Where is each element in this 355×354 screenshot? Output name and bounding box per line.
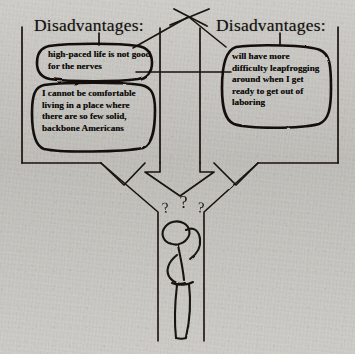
heading-left: Disadvantages:: [34, 15, 144, 36]
bubble-right-text: will have more difficulty leapfrogging a…: [232, 51, 324, 109]
figure-foot-left: [176, 338, 186, 339]
question-mark-2: ?: [179, 192, 188, 212]
figure-leg-right: [186, 284, 190, 337]
question-mark-1: ?: [161, 199, 170, 216]
figure-head: [160, 219, 191, 247]
heading-right: Disadvantages:: [216, 15, 326, 36]
inner-vertical-lines: [160, 28, 200, 163]
x-diagonal-connectors: [133, 17, 226, 48]
question-marks-group: ? ? ?: [161, 192, 206, 216]
figure-raised-arm: [186, 229, 200, 259]
diagram-canvas: ? ? ? Disadvant: [0, 0, 355, 354]
stick-figure: [160, 219, 200, 339]
figure-leg-left: [175, 285, 177, 338]
right-down-arrow: [214, 163, 258, 185]
bubble-left-top-text: high-paced life is not good for the nerv…: [48, 49, 152, 72]
bubble-left-bottom-text: I cannot be comfortable living in a plac…: [42, 88, 152, 134]
figure-torso: [178, 245, 184, 280]
